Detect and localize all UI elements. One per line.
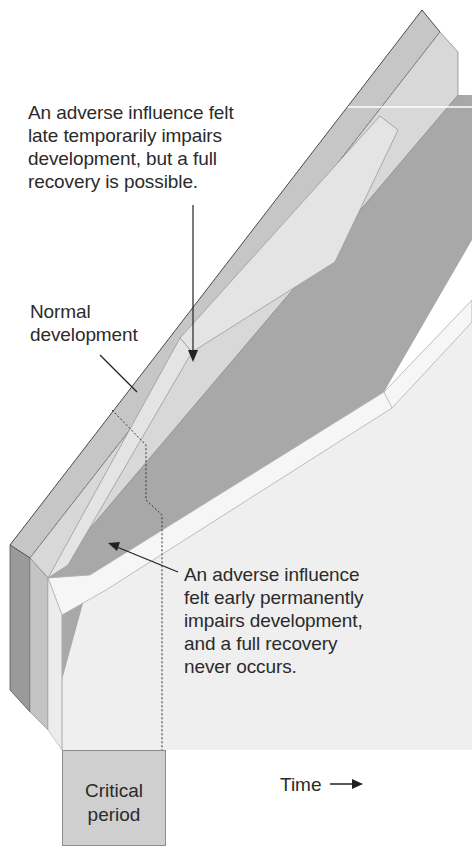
early-influence-annotation: An adverse influence felt early permanen… — [184, 563, 363, 678]
cropped-caption: ... — [74, 0, 90, 5]
time-axis-label: Time — [280, 774, 322, 796]
left-strip-dark — [10, 545, 30, 712]
critical-period-label: Critical period — [63, 779, 165, 827]
left-strip-mid — [30, 558, 48, 730]
late-influence-annotation: An adverse influence felt late temporari… — [28, 101, 234, 193]
normal-development-pointer — [100, 355, 137, 392]
right-arrow-icon — [330, 775, 364, 793]
normal-development-label: Normal development — [30, 300, 138, 346]
critical-period-box: Critical period — [62, 750, 166, 846]
